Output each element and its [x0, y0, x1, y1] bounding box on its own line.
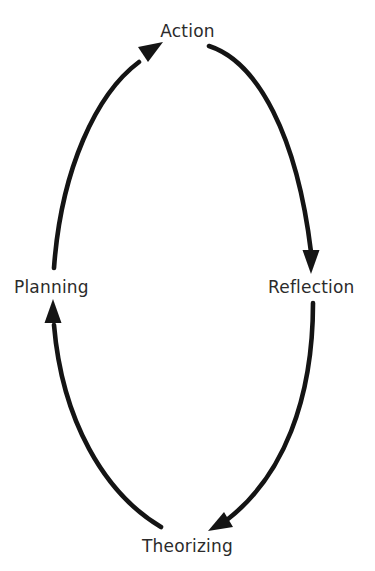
cycle-diagram: Action Reflection Theorizing Planning — [0, 0, 375, 571]
arc-theorizing-to-planning — [45, 299, 162, 527]
arc-reflection-to-theorizing — [208, 303, 313, 531]
node-label-planning: Planning — [14, 279, 89, 296]
arrowhead-up-right-icon — [138, 42, 163, 62]
arc-planning-to-action — [54, 42, 163, 268]
arc-action-to-reflection — [209, 46, 320, 274]
node-label-theorizing: Theorizing — [0, 538, 375, 555]
arrowhead-down-left-icon — [208, 512, 233, 531]
arrowhead-down-icon — [303, 250, 320, 274]
arrowhead-up-icon — [45, 299, 62, 323]
node-label-reflection: Reflection — [268, 279, 355, 296]
node-label-action: Action — [0, 23, 375, 40]
